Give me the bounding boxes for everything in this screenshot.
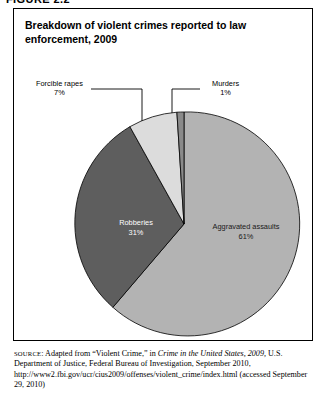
slice-label-aggravated-assaults: Aggravated assaults 61% — [194, 222, 298, 241]
slice-label-robberies: Robberies 31% — [100, 218, 172, 237]
source-note: SOURCE: Adapted from “Violent Crime,” in… — [14, 349, 314, 391]
callout-murders: Murders 1% — [212, 79, 239, 98]
pie-chart — [14, 9, 312, 340]
pie-chart-svg — [14, 9, 312, 340]
callout-murders-name: Murders — [212, 79, 239, 88]
callout-forcible-rapes-percent: 7% — [36, 88, 83, 97]
slice-label-aggravated-assaults-percent: 61% — [194, 232, 298, 242]
source-publication-title: Crime in the United States, 2009, — [158, 349, 266, 358]
figure-page: FIGURE 2.2 Breakdown of violent crimes r… — [0, 0, 329, 399]
slice-label-robberies-name: Robberies — [100, 218, 172, 228]
source-text-a: : Adapted from “Violent Crime,” in — [41, 349, 158, 358]
callout-forcible-rapes: Forcible rapes 7% — [36, 79, 83, 98]
callout-murders-percent: 1% — [212, 88, 239, 97]
callout-forcible-rapes-name: Forcible rapes — [36, 79, 83, 88]
slice-label-aggravated-assaults-name: Aggravated assaults — [194, 222, 298, 232]
source-prefix: SOURCE — [14, 350, 41, 357]
figure-number-label: FIGURE 2.2 — [6, 0, 70, 5]
slice-label-robberies-percent: 31% — [100, 228, 172, 238]
figure-frame: Breakdown of violent crimes reported to … — [13, 8, 313, 341]
